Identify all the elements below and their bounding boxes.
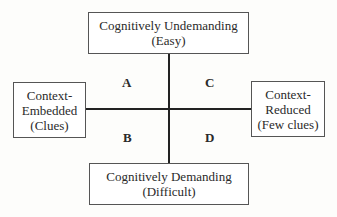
right-box-line2: Reduced <box>265 102 310 117</box>
quadrant-b-label: B <box>123 130 132 146</box>
quadrant-d-label: D <box>205 130 214 146</box>
bottom-box-cognitively-demanding: Cognitively Demanding (Difficult) <box>89 163 249 205</box>
horizontal-axis <box>85 108 251 110</box>
left-box-line2: Embedded <box>22 103 78 118</box>
bottom-box-line2: (Difficult) <box>142 184 195 199</box>
right-box-line1: Context- <box>265 87 311 102</box>
right-box-line3: (Few clues) <box>257 117 318 132</box>
left-box-context-embedded: Context- Embedded (Clues) <box>13 82 86 138</box>
right-box-context-reduced: Context- Reduced (Few clues) <box>251 81 325 137</box>
top-box-line1: Cognitively Undemanding <box>99 18 237 33</box>
quadrant-a-label: A <box>122 75 131 91</box>
left-box-line3: (Clues) <box>30 118 68 133</box>
bottom-box-line1: Cognitively Demanding <box>106 169 231 184</box>
quadrant-c-label: C <box>205 75 214 91</box>
top-box-cognitively-undemanding: Cognitively Undemanding (Easy) <box>88 12 249 54</box>
left-box-line1: Context- <box>27 88 73 103</box>
top-box-line2: (Easy) <box>152 33 186 48</box>
